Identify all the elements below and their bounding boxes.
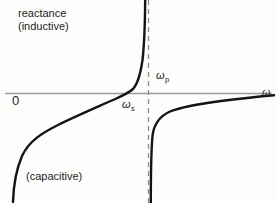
parallel-resonance-symbol: ω	[156, 69, 165, 81]
capacitive-region-label: (capacitive)	[26, 170, 82, 183]
origin-label: 0	[12, 93, 19, 108]
series-resonance-label: ωs	[122, 98, 134, 111]
reactance-vs-frequency-figure: reactance (inductive) (capacitive) 0 ωs …	[0, 0, 276, 203]
y-axis-title-line1: reactance	[18, 7, 69, 20]
x-axis-label: ω	[262, 86, 270, 98]
parallel-resonance-label: ωp	[156, 69, 169, 82]
inductive-branch-curve	[151, 95, 274, 203]
y-axis-title-line2: (inductive)	[18, 20, 69, 33]
series-resonance-symbol: ω	[122, 98, 131, 110]
y-axis-title: reactance (inductive)	[18, 7, 69, 33]
parallel-resonance-subscript: p	[165, 75, 169, 84]
series-resonance-subscript: s	[131, 104, 135, 113]
